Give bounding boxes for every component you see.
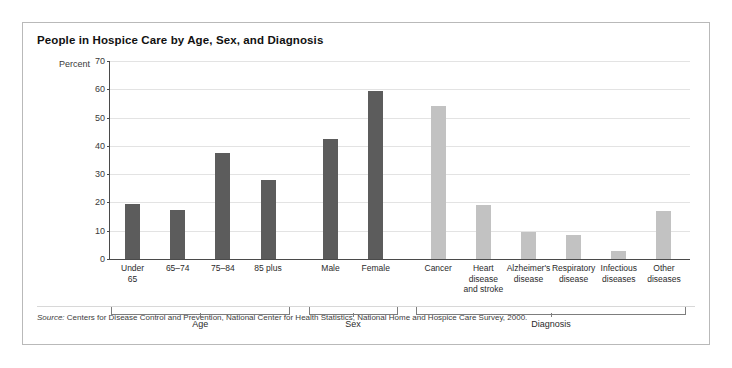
y-tick-mark <box>107 174 110 175</box>
y-tick-mark <box>107 89 110 90</box>
x-tick-label: 85 plus <box>238 263 298 274</box>
bar <box>170 210 185 260</box>
gridline <box>110 89 690 90</box>
gridline <box>110 146 690 147</box>
y-tick-mark <box>107 202 110 203</box>
footer-divider <box>37 306 695 307</box>
y-tick-label: 60 <box>95 84 105 94</box>
bar <box>566 235 581 259</box>
y-tick-label: 10 <box>95 226 105 236</box>
y-tick-mark <box>107 231 110 232</box>
plot-area: 010203040506070 Under 6565–7475–8485 plu… <box>110 61 690 259</box>
bar <box>611 251 626 259</box>
bar <box>476 205 491 259</box>
gridline <box>110 118 690 119</box>
bar <box>368 91 383 259</box>
y-tick-label: 70 <box>95 56 105 66</box>
bar <box>431 106 446 259</box>
y-tick-label: 30 <box>95 169 105 179</box>
bar <box>323 139 338 259</box>
bar <box>656 211 671 259</box>
source-note: Source: Centers for Disease Control and … <box>37 313 695 322</box>
y-tick-mark <box>107 118 110 119</box>
x-tick-label: Other diseases <box>634 263 694 284</box>
gridline <box>110 231 690 232</box>
bar <box>125 204 140 259</box>
chart-card: People in Hospice Care by Age, Sex, and … <box>22 22 710 345</box>
gridline <box>110 174 690 175</box>
gridline <box>110 61 690 62</box>
y-axis-title: Percent <box>59 59 90 69</box>
bar <box>261 180 276 259</box>
y-tick-label: 20 <box>95 197 105 207</box>
x-axis-line <box>109 259 690 260</box>
bar <box>521 232 536 259</box>
y-tick-mark <box>107 259 110 260</box>
y-tick-label: 40 <box>95 141 105 151</box>
gridline <box>110 202 690 203</box>
x-tick-label: Female <box>346 263 406 274</box>
y-tick-mark <box>107 61 110 62</box>
y-axis-line <box>109 61 110 259</box>
y-tick-label: 50 <box>95 113 105 123</box>
bar <box>215 153 230 259</box>
source-text: Centers for Disease Control and Preventi… <box>65 313 528 322</box>
y-tick-mark <box>107 146 110 147</box>
chart-title: People in Hospice Care by Age, Sex, and … <box>37 34 323 46</box>
source-label: Source: <box>37 313 65 322</box>
